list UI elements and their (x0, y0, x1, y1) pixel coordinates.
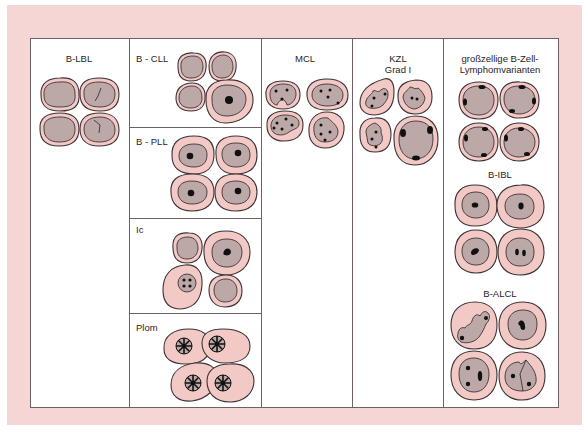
label-b-pll: B - PLL (136, 136, 168, 147)
label-mcl: MCL (295, 53, 315, 64)
row-divider (129, 218, 261, 219)
mcl-cells (265, 78, 351, 150)
column-divider (261, 39, 262, 407)
row-divider (129, 127, 261, 128)
label-large-b-line1: großzellige B-Zell- (461, 53, 538, 64)
label-ic: Ic (136, 224, 143, 235)
label-b-ibl: B-IBL (488, 169, 512, 180)
b-lbl-cells (38, 76, 123, 148)
label-kzl-grade: Grad I (385, 64, 411, 75)
label-kzl: KZL (389, 53, 406, 64)
large-b-cells (458, 80, 542, 164)
label-b-alcl: B-ALCL (483, 288, 516, 299)
plom-cells (162, 327, 256, 405)
label-b-cll: B - CLL (136, 53, 168, 64)
label-large-b-line2: Lymphomvarianten (460, 64, 540, 75)
ic-cells (161, 230, 257, 312)
b-cll-cells (175, 50, 255, 126)
column-divider (352, 39, 353, 407)
column-divider (443, 39, 444, 407)
row-divider (129, 313, 261, 314)
kzl-cells (358, 77, 438, 169)
label-plom: Plom (136, 322, 158, 333)
b-ibl-cells (453, 182, 547, 278)
b-alcl-cells (449, 300, 549, 404)
b-pll-cells (170, 134, 260, 214)
column-divider (129, 39, 130, 407)
label-b-lbl: B-LBL (66, 53, 92, 64)
